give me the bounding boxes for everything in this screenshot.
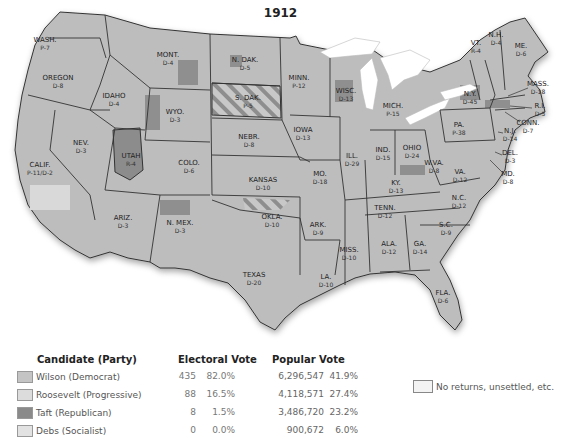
state-electoral-vote: D-12 — [378, 212, 393, 219]
state-label: CONN.D-7 — [516, 119, 539, 134]
state-electoral-vote: D-15 — [376, 154, 391, 161]
state-label: FLA.D-6 — [436, 289, 451, 304]
state-name: N. DAK. — [232, 56, 259, 64]
ev-percent: 82.0% — [205, 371, 235, 381]
state-name: N. MEX. — [166, 219, 193, 227]
state-name: COLO. — [178, 159, 200, 167]
state-electoral-vote: D-10 — [342, 254, 357, 261]
state-label: LA.D-10 — [319, 273, 334, 288]
state-name: OKLA. — [261, 213, 282, 221]
debs-swatch — [17, 425, 33, 437]
state-electoral-vote: D-13 — [389, 187, 404, 194]
state-name: VT. — [471, 39, 481, 47]
state-name: MD. — [501, 170, 515, 178]
state-electoral-vote: D-8 — [244, 141, 255, 148]
us-election-map-1912: WASH.P-7OREGOND-8IDAHOD-4MONT.D-4WYO.D-3… — [0, 0, 561, 345]
state-name: N.Y. — [464, 90, 477, 98]
state-name: S.C. — [439, 221, 453, 229]
state-label: N.J.D-14 — [503, 127, 518, 142]
state-electoral-vote: D-6 — [184, 167, 195, 174]
state-name: N.J. — [504, 127, 516, 135]
state-electoral-vote: D-20 — [247, 279, 262, 286]
state-electoral-vote: P-7 — [40, 44, 50, 51]
legend-header-candidate: Candidate (Party) — [37, 354, 137, 365]
state-electoral-vote: D-18 — [531, 88, 546, 95]
state-electoral-vote: D-3 — [170, 116, 181, 123]
state-name: ALA. — [381, 240, 397, 248]
pv-count: 900,672 — [272, 425, 324, 435]
ev-count: 88 — [178, 389, 196, 399]
ev-count: 435 — [178, 371, 196, 381]
state-name: IND. — [376, 146, 391, 154]
state-name: ILL. — [346, 152, 358, 160]
state-label: MISS.D-10 — [339, 246, 358, 261]
state-name: VA. — [454, 168, 465, 176]
state-name: OREGON — [43, 74, 74, 82]
state-name: TEXAS — [242, 271, 266, 279]
state-name: ARIZ. — [114, 214, 133, 222]
state-label: ILL.D-29 — [345, 152, 360, 167]
ev-percent: 0.0% — [205, 425, 235, 435]
state-electoral-vote: D-6 — [516, 50, 527, 57]
state-label: N.H.D-4 — [489, 31, 504, 46]
state-name: NEV. — [73, 139, 89, 147]
state-electoral-vote: D-8 — [503, 178, 514, 185]
no-returns-swatch — [413, 380, 433, 393]
legend-header-popular: Popular Vote — [272, 354, 345, 365]
pv-count: 6,296,547 — [272, 371, 324, 381]
state-name: WYO. — [166, 108, 184, 116]
state-name: TENN. — [373, 204, 395, 212]
no-returns-legend: No returns, unsettled, etc. — [413, 380, 554, 393]
state-electoral-vote: P-5 — [243, 102, 253, 109]
state-electoral-vote: P-11/D-2 — [27, 169, 53, 176]
state-electoral-vote: D-10 — [265, 221, 280, 228]
state-label: R.I.D-5 — [534, 102, 545, 117]
state-electoral-vote: D-12 — [382, 248, 397, 255]
state-label: N.C.D-12 — [452, 194, 467, 209]
ev-count: 8 — [178, 407, 196, 417]
state-electoral-vote: D-6 — [438, 297, 449, 304]
state-electoral-vote: D-24 — [405, 152, 420, 159]
candidate-name: Debs (Socialist) — [36, 426, 106, 436]
state-name: MONT. — [157, 51, 179, 59]
state-name: WISC. — [336, 87, 357, 95]
state-electoral-vote: D-10 — [256, 184, 271, 191]
pv-count: 4,118,571 — [272, 389, 324, 399]
state-electoral-vote: D-18 — [313, 178, 328, 185]
pv-percent: 41.9% — [328, 371, 358, 381]
state-electoral-vote: D-5 — [535, 110, 546, 117]
state-label: MD.D-8 — [501, 170, 515, 185]
pv-percent: 27.4% — [328, 389, 358, 399]
state-name: MO. — [313, 170, 327, 178]
legend: Candidate (Party) Electoral Vote Popular… — [0, 350, 561, 443]
state-electoral-vote: D-3 — [505, 157, 516, 164]
state-electoral-vote: D-9 — [441, 229, 452, 236]
state-electoral-vote: D-3 — [175, 227, 186, 234]
state-label: DEL.D-3 — [502, 149, 518, 164]
state-label: ALA.D-12 — [381, 240, 397, 255]
state-electoral-vote: D-29 — [345, 160, 360, 167]
pv-count: 3,486,720 — [272, 407, 324, 417]
state-name: PA. — [454, 121, 465, 129]
state-name: WASH. — [33, 36, 56, 44]
state-electoral-vote: D-8 — [53, 82, 64, 89]
state-label: WISC.D-13 — [336, 87, 357, 102]
state-label: PA.P-38 — [452, 121, 465, 136]
state-electoral-vote: D-3 — [76, 147, 87, 154]
roosevelt-swatch — [17, 389, 33, 401]
state-name: ME. — [515, 42, 528, 50]
state-name: MINN. — [289, 74, 310, 82]
state-name: LA. — [321, 273, 332, 281]
state-name: KANSAS — [249, 176, 278, 184]
state-electoral-vote: D-4 — [163, 59, 174, 66]
state-name: UTAH — [122, 152, 141, 160]
candidate-name: Roosevelt (Progressive) — [36, 390, 142, 400]
state-label: VA.D-12 — [453, 168, 468, 183]
state-name: OHIO — [403, 144, 422, 152]
no-returns-label: No returns, unsettled, etc. — [436, 382, 554, 392]
state-name: N.C. — [452, 194, 467, 202]
pv-percent: 6.0% — [328, 425, 358, 435]
state-name: DEL. — [502, 149, 518, 157]
state-name: N.H. — [489, 31, 504, 39]
state-name: MISS. — [339, 246, 358, 254]
